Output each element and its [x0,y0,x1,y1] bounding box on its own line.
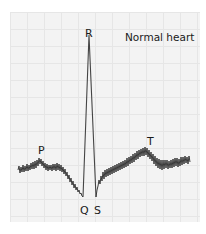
wave-label-t: T [147,136,154,147]
wave-label-q: Q [80,205,89,216]
wave-label-r: R [85,28,93,39]
ecg-diagram: R Normal heart P T Q S [0,0,206,234]
wave-label-p: P [38,145,45,156]
diagram-title: Normal heart [125,32,194,43]
wave-label-s: S [94,205,101,216]
